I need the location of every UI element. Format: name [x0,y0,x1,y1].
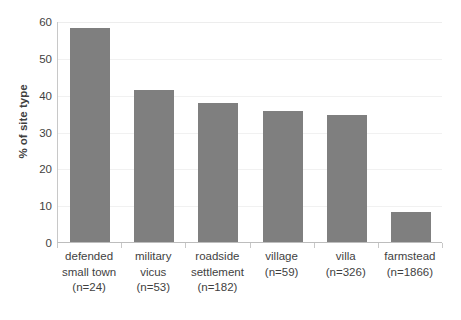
x-category-label-line: (n=53) [121,280,185,296]
x-tick-mark [314,243,315,248]
x-category-label: militaryvicus(n=53) [121,249,185,296]
bar[interactable] [263,111,303,242]
y-axis-tick-labels: 0102030405060 [24,22,52,243]
x-category-label-line: small town [57,265,121,281]
x-category-label-line: settlement [185,265,249,281]
x-tick-mark [185,243,186,248]
y-tick-label: 40 [24,90,52,102]
x-axis-category-labels: defendedsmall town(n=24)militaryvicus(n=… [57,249,442,311]
bar-slot [379,22,443,242]
x-category-label-line: military [121,249,185,265]
x-category-label-line: villa [314,249,378,265]
x-category-label-line: (n=24) [57,280,121,296]
x-category-label: roadsidesettlement(n=182) [185,249,249,296]
bar-slot [186,22,250,242]
x-category-label-line: defended [57,249,121,265]
bar-slot [122,22,186,242]
y-tick-label: 20 [24,163,52,175]
x-category-label-line: village [250,249,314,265]
x-category-label: defendedsmall town(n=24) [57,249,121,296]
y-tick-label: 30 [24,127,52,139]
bar-slot [251,22,315,242]
bar[interactable] [327,115,367,242]
bars-layer [58,22,442,242]
x-category-label-line: (n=326) [314,265,378,281]
x-category-label-line: roadside [185,249,249,265]
x-tick-mark [57,243,58,248]
x-category-label: village(n=59) [250,249,314,280]
bar[interactable] [391,212,431,242]
x-category-label-line: farmstead [378,249,442,265]
y-tick-label: 60 [24,16,52,28]
x-tick-mark [250,243,251,248]
bar[interactable] [198,103,238,242]
bar-slot [315,22,379,242]
plot-area [57,22,442,243]
x-category-label-line: (n=59) [250,265,314,281]
x-tick-mark [442,243,443,248]
bar[interactable] [70,28,110,242]
x-category-label-line: (n=182) [185,280,249,296]
x-tick-mark [121,243,122,248]
bar-slot [58,22,122,242]
x-category-label-line: vicus [121,265,185,281]
x-category-label: farmstead(n=1866) [378,249,442,280]
bar-chart: % of site type 0102030405060 defendedsma… [0,0,461,320]
x-tick-mark [378,243,379,248]
y-tick-label: 0 [24,237,52,249]
y-tick-label: 50 [24,53,52,65]
x-category-label: villa(n=326) [314,249,378,280]
bar[interactable] [134,90,174,242]
y-tick-label: 10 [24,200,52,212]
x-category-label-line: (n=1866) [378,265,442,281]
